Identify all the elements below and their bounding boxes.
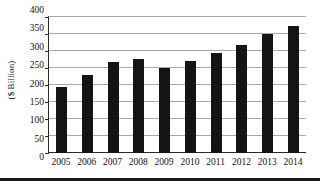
bar-2010 bbox=[185, 61, 196, 153]
bar-2013 bbox=[262, 34, 273, 153]
y-axis-title-label: ($ Billion) bbox=[6, 61, 16, 100]
y-tick-label-150: 150 bbox=[30, 98, 44, 108]
x-tick-label-2005: 2005 bbox=[48, 155, 74, 171]
bottom-horizontal-rule bbox=[0, 178, 320, 181]
bar-2005 bbox=[56, 87, 67, 153]
bar-slot bbox=[229, 17, 255, 153]
x-tick-label-2011: 2011 bbox=[203, 155, 229, 171]
bar-slot bbox=[152, 17, 178, 153]
y-tick-label-200: 200 bbox=[30, 80, 44, 90]
bar-slot bbox=[280, 17, 306, 153]
y-tick-label-100: 100 bbox=[30, 117, 44, 127]
bar-slot bbox=[178, 17, 204, 153]
x-tick-label-2008: 2008 bbox=[125, 155, 151, 171]
y-tick-label-300: 300 bbox=[30, 43, 44, 53]
y-tick-label-400: 400 bbox=[30, 6, 44, 16]
x-axis-tick-labels: 2005200620072008200920102011201220132014 bbox=[48, 155, 306, 171]
bar-2014 bbox=[288, 26, 299, 154]
bar-2012 bbox=[236, 45, 247, 153]
x-tick-label-2009: 2009 bbox=[151, 155, 177, 171]
x-tick-label-2012: 2012 bbox=[229, 155, 255, 171]
x-tick-label-2014: 2014 bbox=[280, 155, 306, 171]
bar-slot bbox=[100, 17, 126, 153]
x-tick-label-2007: 2007 bbox=[100, 155, 126, 171]
y-tick-label-0: 0 bbox=[39, 153, 44, 163]
bar-slot bbox=[49, 17, 75, 153]
bar-2007 bbox=[108, 62, 119, 153]
y-axis-tick-labels: 050100150200250300350400 bbox=[20, 11, 46, 158]
y-tick-label-250: 250 bbox=[30, 61, 44, 71]
bar-slot bbox=[75, 17, 101, 153]
bar-2011 bbox=[211, 53, 222, 153]
bar-slot bbox=[203, 17, 229, 153]
bar-slot bbox=[255, 17, 281, 153]
x-tick-label-2013: 2013 bbox=[254, 155, 280, 171]
y-axis-title: ($ Billion) bbox=[0, 0, 22, 160]
y-tick-label-50: 50 bbox=[35, 135, 45, 145]
bar-2008 bbox=[133, 59, 144, 153]
x-tick-label-2010: 2010 bbox=[177, 155, 203, 171]
bars-layer bbox=[49, 17, 306, 153]
plot-area bbox=[48, 16, 306, 153]
x-tick-label-2006: 2006 bbox=[74, 155, 100, 171]
bar-2006 bbox=[82, 75, 93, 153]
bar-slot bbox=[126, 17, 152, 153]
bar-chart-figure: ($ Billion) 050100150200250300350400 200… bbox=[0, 0, 320, 187]
bar-2009 bbox=[159, 68, 170, 153]
y-tick-label-350: 350 bbox=[30, 25, 44, 35]
